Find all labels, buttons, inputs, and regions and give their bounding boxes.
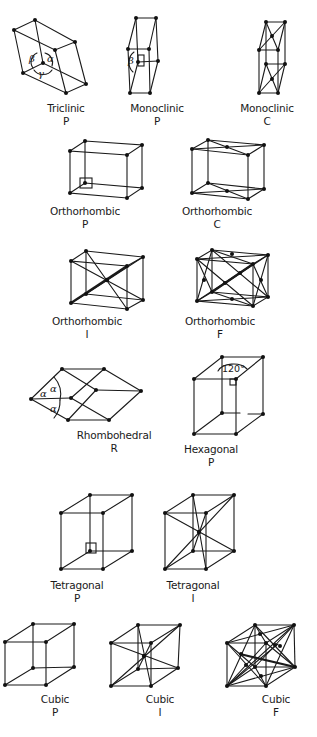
tetragonal-p-cell [59,493,134,571]
orthorhombic-i-label: Orthorhombic I [52,315,122,341]
monoclinic-c-cell [257,20,287,95]
cubic-f-label: Cubic F [262,693,290,719]
orthorhombic-p-label: Orthorhombic P [50,205,120,231]
angle-beta-label: β [127,55,134,66]
system-name: Tetragonal [50,579,103,592]
orthorhombic-p-cell [68,139,144,200]
angle-120-label: 120° [222,363,245,374]
cubic-p-cell [3,622,76,687]
system-name: Hexagonal [184,443,238,456]
hexagonal-p-label: Hexagonal P [184,443,238,469]
angle-beta-label: β [28,53,35,64]
tetragonal-i-label: Tetragonal I [166,579,219,605]
monoclinic-c-label: Monoclinic C [240,102,294,128]
cubic-f-cell [225,623,297,688]
system-name: Rhombohedral [77,429,152,442]
system-name: Orthorhombic [50,205,120,218]
system-name: Cubic [41,693,69,706]
centering-symbol: P [50,592,103,605]
orthorhombic-f-label: Orthorhombic F [185,315,255,341]
rhombohedral-r-label: Rhombohedral R [77,429,152,455]
centering-symbol: F [262,706,290,719]
triclinic-p-cell: β α γ [12,18,88,95]
centering-symbol: I [52,328,122,341]
angle-gamma-label: γ [38,68,44,79]
hexagonal-p-cell: 120° [192,355,265,436]
cubic-i-label: Cubic I [146,693,174,719]
cubic-p-label: Cubic P [41,693,69,719]
system-name: Cubic [262,693,290,706]
centering-symbol: R [77,442,152,455]
orthorhombic-i-cell [69,249,145,311]
centering-symbol: I [146,706,174,719]
system-name: Orthorhombic [185,315,255,328]
system-name: Orthorhombic [52,315,122,328]
tetragonal-i-cell [163,493,236,571]
centering-symbol: P [130,115,184,128]
centering-symbol: C [240,115,294,128]
centering-symbol: P [184,456,238,469]
orthorhombic-f-cell [195,248,270,308]
angle-alpha-label-1: α [40,388,47,399]
centering-symbol: P [47,115,84,128]
centering-symbol: I [166,592,219,605]
angle-alpha-label-3: α [50,403,57,414]
monoclinic-p-label: Monoclinic P [130,102,184,128]
tetragonal-p-label: Tetragonal P [50,579,103,605]
system-name: Monoclinic [240,102,294,115]
triclinic-p-label: Triclinic P [47,102,84,128]
angle-alpha-label-2: α [50,383,57,394]
system-name: Cubic [146,693,174,706]
system-name: Tetragonal [166,579,219,592]
centering-symbol: P [41,706,69,719]
cubic-i-cell [109,623,182,688]
system-name: Triclinic [47,102,84,115]
system-name: Monoclinic [130,102,184,115]
monoclinic-p-cell: β [126,16,160,95]
orthorhombic-c-cell [190,138,266,201]
system-name: Orthorhombic [182,205,252,218]
centering-symbol: P [50,218,120,231]
centering-symbol: C [182,218,252,231]
angle-alpha-label: α [47,53,54,64]
rhombohedral-r-cell: α α α [29,367,143,422]
orthorhombic-c-label: Orthorhombic C [182,205,252,231]
centering-symbol: F [185,328,255,341]
